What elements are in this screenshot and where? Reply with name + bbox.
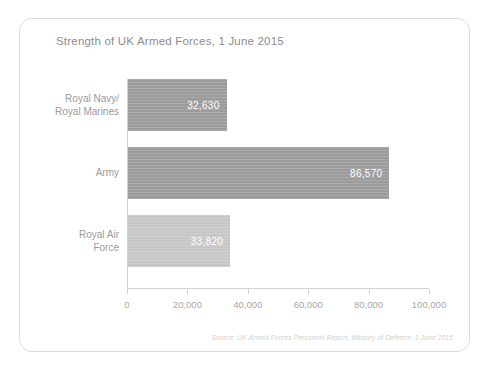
x-axis-tick [127, 289, 128, 294]
x-axis-tick-label: 20,000 [173, 299, 202, 310]
x-axis-tick-label: 80,000 [354, 299, 383, 310]
bar-value-label: 86,570 [350, 168, 382, 179]
plot-area: Royal Navy/ Royal Marines Army Royal Air… [127, 79, 429, 289]
x-axis-tick-label: 40,000 [233, 299, 262, 310]
category-label-royal-navy-royal-marines: Royal Navy/ Royal Marines [9, 93, 119, 118]
x-axis-tick [369, 289, 370, 294]
bar-value-label: 32,630 [187, 100, 219, 111]
bar-royal-air-force[interactable]: 33,820 [128, 215, 230, 267]
x-axis-tick [187, 289, 188, 294]
bar-series: 32,630 86,570 33,820 [128, 79, 430, 289]
x-axis-tick-label: 0 [124, 299, 129, 310]
page-title: Strength of UK Armed Forces, 1 June 2015 [56, 35, 284, 47]
x-axis-tick [248, 289, 249, 294]
source-note: Source: UK Armed Forces Personnel Report… [212, 334, 453, 341]
category-label-royal-air-force: Royal Air Force [9, 229, 119, 254]
chart-card: Strength of UK Armed Forces, 1 June 2015… [19, 18, 470, 352]
bar-value-label: 33,820 [191, 236, 223, 247]
x-axis-tick [308, 289, 309, 294]
category-label-army: Army [9, 167, 119, 180]
x-axis-tick-label: 100,000 [412, 299, 446, 310]
bar-royal-navy-royal-marines[interactable]: 32,630 [128, 79, 227, 131]
bar-army[interactable]: 86,570 [128, 147, 389, 199]
x-axis-tick [429, 289, 430, 294]
x-axis-tick-label: 60,000 [294, 299, 323, 310]
